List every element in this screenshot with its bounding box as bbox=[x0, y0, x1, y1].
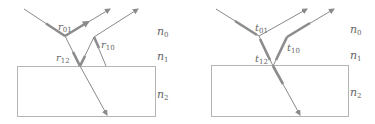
transmitted-ray bbox=[80, 66, 107, 115]
thin-film-diagram: r01 r10 r12 n0 n1 n2 t01 t10 t12 n0 n1 n… bbox=[0, 0, 375, 124]
second-outgoing-highlight bbox=[287, 23, 310, 37]
film-ray-down-highlight bbox=[73, 52, 80, 66]
label-t12: t12 bbox=[255, 53, 268, 66]
film-ray-r10-highlight bbox=[94, 37, 99, 48]
label-n2: n2 bbox=[350, 86, 362, 100]
substrate-box bbox=[18, 67, 156, 117]
second-outgoing-ray bbox=[94, 9, 138, 37]
label-n1: n1 bbox=[157, 50, 169, 64]
substrate-box bbox=[212, 66, 349, 117]
incident-ray-highlight bbox=[235, 21, 257, 35]
label-r10: r10 bbox=[101, 39, 115, 52]
film-ray-up-highlight bbox=[80, 56, 85, 66]
label-n1: n1 bbox=[350, 49, 362, 63]
film-ray-down-highlight bbox=[260, 39, 270, 60]
label-n2: n2 bbox=[157, 88, 169, 102]
label-t10: t10 bbox=[287, 42, 300, 55]
label-n0: n0 bbox=[350, 23, 362, 37]
reflection-panel: r01 r10 r12 n0 n1 n2 bbox=[18, 9, 169, 117]
label-r12: r12 bbox=[56, 52, 70, 65]
transmitted-ray-highlight bbox=[273, 66, 283, 84]
film-ray-up-highlight bbox=[276, 37, 287, 60]
label-n0: n0 bbox=[157, 25, 169, 39]
transmission-panel: t01 t10 t12 n0 n1 n2 bbox=[212, 9, 362, 117]
label-t01: t01 bbox=[255, 22, 268, 35]
